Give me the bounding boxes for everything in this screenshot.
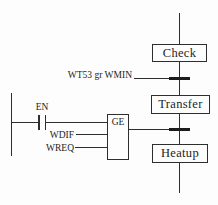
no-contact-symbol (38, 115, 40, 130)
sfc-spine-top (179, 13, 180, 44)
rung-line-right (46, 122, 107, 123)
step-heatup-label: Heatup (161, 146, 199, 160)
ladder-rail (11, 93, 12, 156)
ge-input-wreq-label: WREQ (30, 143, 74, 154)
contact-en-label: EN (30, 102, 54, 113)
step-check-box: Check (152, 44, 207, 62)
step-check-label: Check (163, 46, 196, 60)
step-transfer-box: Transfer (151, 95, 210, 114)
ge-input-wreq-line (75, 147, 107, 148)
sfc-spine-bottom (179, 163, 180, 193)
transition1-condition-line (134, 78, 170, 79)
transition1-condition-label: WT53 gr WMIN (40, 70, 132, 81)
ge-input-wdif-label: WDIF (30, 130, 74, 141)
sfc-ladder-diagram: Check WT53 gr WMIN Transfer Heatup EN GE… (0, 0, 218, 205)
step-heatup-box: Heatup (152, 144, 208, 163)
ge-block: GE (107, 114, 129, 160)
transition2-bar (169, 128, 190, 131)
rung-line-left (11, 122, 38, 123)
ge-input-wdif-line (76, 134, 107, 135)
ge-output-line (129, 129, 169, 130)
step-transfer-label: Transfer (158, 97, 202, 111)
ge-block-label: GE (108, 115, 128, 127)
transition1-bar (169, 77, 190, 80)
